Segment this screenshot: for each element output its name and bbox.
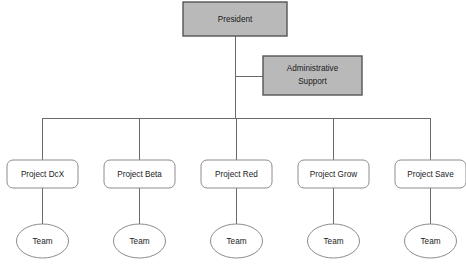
project-label-1: Project DcX [21, 170, 65, 179]
team-label-3: Team [226, 237, 246, 246]
administrative-support-label-line-2: Support [298, 77, 327, 86]
node-project-5[interactable]: Project Save [395, 160, 466, 188]
node-team-2[interactable]: Team [114, 224, 166, 258]
node-president[interactable]: President [183, 2, 287, 36]
node-project-1[interactable]: Project DcX [7, 160, 78, 188]
project-label-2: Project Beta [117, 170, 162, 179]
team-label-1: Team [32, 237, 52, 246]
team-label-4: Team [323, 237, 343, 246]
connector-group [43, 36, 431, 224]
node-project-3[interactable]: Project Red [201, 160, 272, 188]
node-administrative-support[interactable]: Administrative Support [263, 56, 362, 95]
project-label-5: Project Save [407, 170, 454, 179]
org-chart-canvas: President Administrative Support Project… [0, 0, 466, 266]
administrative-support-label-line-1: Administrative [287, 64, 339, 73]
team-label-5: Team [420, 237, 440, 246]
team-label-2: Team [129, 237, 149, 246]
administrative-support-box[interactable] [263, 56, 362, 95]
president-label: President [218, 15, 253, 24]
node-project-4[interactable]: Project Grow [298, 160, 369, 188]
node-project-2[interactable]: Project Beta [104, 160, 175, 188]
project-label-3: Project Red [215, 170, 258, 179]
node-team-1[interactable]: Team [17, 224, 69, 258]
org-chart-svg: President Administrative Support Project… [0, 0, 466, 266]
node-team-4[interactable]: Team [308, 224, 360, 258]
node-team-3[interactable]: Team [211, 224, 263, 258]
node-team-5[interactable]: Team [405, 224, 457, 258]
project-label-4: Project Grow [310, 170, 357, 179]
